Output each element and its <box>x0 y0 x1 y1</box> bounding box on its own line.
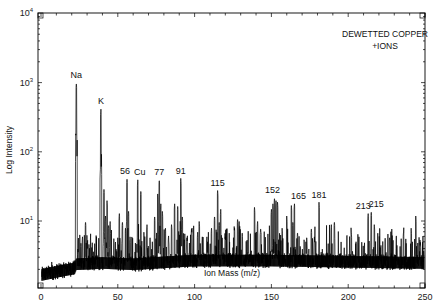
peak-label: 56 <box>120 166 130 176</box>
x-tick-label: 100 <box>187 292 202 302</box>
x-tick-label: 250 <box>417 292 432 302</box>
peak-label: 165 <box>291 191 306 201</box>
peak-label: K <box>98 96 104 106</box>
sample-annotation-line1: DEWETTED COPPER <box>342 29 428 39</box>
x-tick-label: 200 <box>341 292 356 302</box>
y-axis-title: Log Intensity <box>4 125 14 174</box>
peak-label: 115 <box>210 178 224 188</box>
peak-label: Cu <box>134 167 146 177</box>
peak-label: 215 <box>369 199 384 209</box>
mass-spectrum-chart: 050100150200250101102103104Ion Mass (m/z… <box>0 0 438 308</box>
sample-annotation-line2: +IONS <box>372 41 398 51</box>
peak-label: 181 <box>312 190 327 200</box>
x-tick-label: 50 <box>113 292 123 302</box>
x-tick-label: 150 <box>264 292 279 302</box>
peak-label: 152 <box>265 185 280 195</box>
x-axis-title: Ion Mass (m/z) <box>204 268 260 278</box>
peak-label: 91 <box>176 166 186 176</box>
x-tick-label: 0 <box>38 292 43 302</box>
peak-label: 77 <box>154 167 164 177</box>
peak-label: Na <box>71 70 83 80</box>
